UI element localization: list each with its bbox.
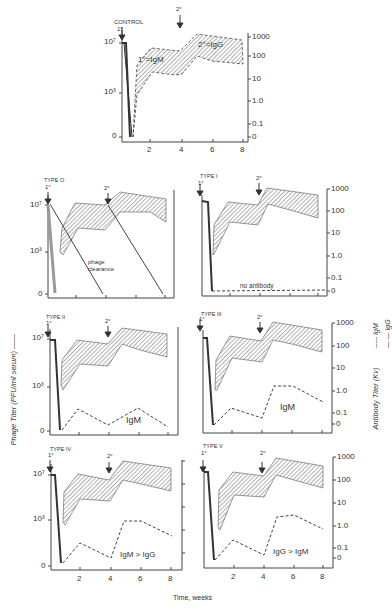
type0-left-tick-0: 0: [38, 289, 42, 298]
type5-right-tick-0: 0: [337, 553, 341, 562]
control-right-tick-01: 0.1: [252, 119, 263, 128]
type4-note-igm-gt-igg: IgM > IgG: [120, 550, 155, 559]
type1-arrow-primary: 1°: [198, 180, 204, 186]
panel-type2: [47, 327, 178, 435]
panel-type4: [48, 460, 185, 570]
type3-note-igm: IgM: [280, 402, 295, 412]
type1-right-tick-1000: 1000: [331, 184, 349, 193]
type0-arrow-primary: 1°: [45, 184, 51, 190]
arrow-label-secondary: 2°: [176, 6, 182, 12]
type2-arrow-primary: 1°: [46, 320, 52, 326]
type4-left-tick-1e3: 10³: [33, 514, 45, 523]
type5-right-tick-1000: 1000: [337, 452, 355, 461]
type5-x-tick-4: 4: [261, 572, 265, 581]
panel-title-control: CONTROL: [114, 19, 143, 25]
control-x-tick-2: 2: [147, 145, 151, 154]
type4-x-tick-2: 2: [77, 574, 81, 583]
control-x-tick-8: 8: [240, 145, 244, 154]
type1-note-no-antibody: no antibody: [240, 282, 274, 289]
type5-arrow-secondary: 2°: [260, 450, 266, 456]
panel-type1: [202, 188, 330, 296]
type2-left-tick-1e3: 10³: [32, 381, 44, 390]
control-x-tick-4: 4: [179, 145, 183, 154]
type0-note-phage: phage: [88, 259, 105, 265]
type1-right-tick-0: 0: [331, 286, 335, 295]
type3-right-tick-01: 0.1: [336, 408, 347, 417]
type0-left-tick-1e3: 10³: [30, 246, 42, 255]
type3-right-tick-1: 1.0: [336, 386, 347, 395]
control-right-tick-1000: 1000: [252, 32, 270, 41]
control-left-tick-0: 0: [112, 131, 116, 140]
panel-control: [119, 30, 251, 142]
panel-type3: [203, 322, 335, 433]
control-left-tick-1e7: 10⁷: [104, 37, 116, 46]
arrow-markers: [45, 15, 265, 473]
type5-x-tick-8: 8: [320, 572, 324, 581]
type1-arrow-secondary: 2°: [256, 175, 262, 181]
type4-arrow-primary: 1°: [48, 452, 54, 458]
y-axis-label-right: Antibody Titer (Kv): [371, 340, 380, 430]
y-axis-label-left: Phage Titer (PFU/mℓ serum) ——: [9, 316, 18, 446]
control-x-tick-6: 6: [210, 145, 214, 154]
control-right-tick-10: 10: [252, 74, 261, 83]
panel-title-type1: TYPE I: [200, 173, 217, 179]
type5-right-tick-01: 0.1: [337, 543, 348, 552]
legend-igg: — — IgG: [384, 299, 391, 349]
control-right-tick-1: 1.0: [252, 96, 263, 105]
type2-left-tick-1e7: 10⁷: [32, 333, 44, 342]
type2-arrow-secondary: 2°: [105, 318, 111, 324]
legend-igm: ----- IgM: [372, 299, 379, 349]
type5-note-igg-gt-igm: IgG > IgM: [273, 547, 308, 556]
control-note-igm: 1°=IgM: [138, 55, 164, 64]
type4-arrow-secondary: 2°: [107, 453, 113, 459]
type0-note-clearance: clearance: [88, 266, 114, 272]
type4-x-tick-8: 8: [168, 574, 172, 583]
type5-x-tick-6: 6: [291, 572, 295, 581]
type0-left-tick-1e7: 10⁷: [30, 200, 42, 209]
type3-right-tick-0: 0: [336, 419, 340, 428]
type5-right-tick-10: 10: [337, 498, 346, 507]
panel-type5: [204, 457, 336, 568]
arrow-label-primary: 1°: [117, 26, 123, 32]
type4-x-tick-4: 4: [108, 574, 112, 583]
panel-type0: [45, 190, 174, 298]
type3-arrow-secondary: 2°: [257, 314, 263, 320]
type3-right-tick-10: 10: [336, 363, 345, 372]
type3-right-tick-100: 100: [336, 341, 349, 350]
type2-left-tick-0: 0: [40, 426, 44, 435]
panel-title-type0: TYPE O: [44, 177, 64, 183]
type5-x-tick-2: 2: [231, 572, 235, 581]
panel-title-type5: TYPE V: [203, 443, 223, 449]
control-right-tick-0: 0: [252, 132, 256, 141]
type1-right-tick-10: 10: [331, 228, 340, 237]
x-axis-label: Time, weeks: [173, 594, 212, 601]
control-right-tick-100: 100: [252, 51, 265, 60]
control-left-tick-1e3: 10³: [104, 87, 116, 96]
type1-right-tick-100: 100: [331, 206, 344, 215]
type3-arrow-primary: 1°: [199, 316, 205, 322]
type3-right-tick-1000: 1000: [336, 318, 354, 327]
type1-right-tick-01: 0.1: [331, 273, 342, 282]
type4-x-tick-6: 6: [138, 574, 142, 583]
type5-right-tick-100: 100: [337, 475, 350, 484]
type1-right-tick-1: 1.0: [331, 251, 342, 260]
figure-canvas: [0, 0, 392, 614]
type5-right-tick-1: 1.0: [337, 521, 348, 530]
type2-note-igm: IgM: [126, 415, 141, 425]
type4-left-tick-1e7: 10⁷: [33, 469, 45, 478]
type4-left-tick-0: 0: [41, 561, 45, 570]
control-note-igg: 2°=IgG: [198, 40, 223, 49]
type5-arrow-primary: 1°: [201, 450, 207, 456]
type0-arrow-secondary: 2°: [104, 185, 110, 191]
